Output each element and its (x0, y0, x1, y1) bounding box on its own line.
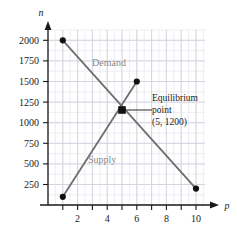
x-tick-label-10: 10 (191, 213, 201, 224)
y-tick-label-2000: 2000 (19, 35, 39, 46)
x-axis-ticks (63, 205, 196, 210)
demand-endpoint-marker-low (193, 186, 199, 192)
y-tick-label-1250: 1250 (19, 97, 39, 108)
supply-demand-chart: 250 500 750 1000 1250 1500 1750 2000 2 4… (0, 0, 237, 229)
supply-endpoint-marker-high (134, 78, 140, 84)
y-axis-arrow (45, 21, 52, 30)
y-axis-label: n (39, 7, 44, 18)
demand-curve-label: Demand (92, 57, 126, 68)
y-tick-label-1750: 1750 (19, 55, 39, 66)
equilibrium-point-marker (118, 106, 126, 114)
equilibrium-annotation-line2: point (152, 105, 172, 115)
x-tick-label-2: 2 (75, 213, 80, 224)
equilibrium-annotation-line1: Equilibrium (152, 93, 199, 103)
demand-endpoint-marker-high (60, 37, 66, 43)
equilibrium-annotation-line3: (5, 1200) (152, 117, 187, 128)
y-axis-ticks (43, 40, 48, 184)
y-tick-label-500: 500 (24, 158, 39, 169)
supply-curve-label: Supply (88, 154, 116, 165)
x-axis-label: p (224, 200, 230, 211)
x-axis-arrow (210, 202, 219, 209)
supply-endpoint-marker-low (60, 194, 66, 200)
y-tick-label-750: 750 (24, 138, 39, 149)
chart-canvas: 250 500 750 1000 1250 1500 1750 2000 2 4… (0, 0, 237, 229)
y-tick-label-1000: 1000 (19, 117, 39, 128)
x-tick-label-4: 4 (105, 213, 110, 224)
y-tick-label-1500: 1500 (19, 76, 39, 87)
x-tick-label-8: 8 (164, 213, 169, 224)
x-tick-label-6: 6 (134, 213, 139, 224)
y-tick-label-250: 250 (24, 179, 39, 190)
